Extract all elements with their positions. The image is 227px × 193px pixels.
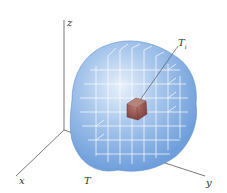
x-axis-label: x — [19, 176, 25, 186]
solid-partition-diagram — [0, 0, 227, 193]
y-axis-label: y — [206, 178, 212, 188]
subbox-label-sub: i — [185, 43, 187, 50]
solid-T-label: T — [84, 176, 91, 186]
z-axis-label: z — [67, 18, 72, 28]
subbox-Ti-label: Ti — [178, 38, 187, 52]
x-axis — [16, 130, 64, 176]
subbox-label-main: T — [178, 37, 185, 48]
